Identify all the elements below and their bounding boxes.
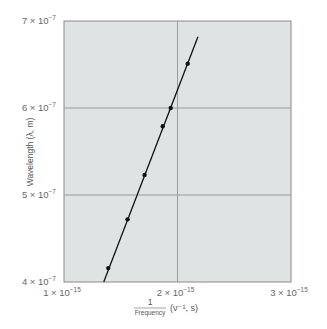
data-point bbox=[125, 217, 129, 221]
y-tick-label: 7 × 10−7 bbox=[22, 14, 56, 26]
x-axis-label: 1 Frequency (ν⁻¹, s) bbox=[134, 297, 198, 317]
data-point bbox=[186, 61, 190, 65]
chart: 4 × 10−75 × 10−76 × 10−77 × 10−7 1 × 10−… bbox=[0, 0, 327, 329]
y-tick-label: 5 × 10−7 bbox=[22, 188, 56, 200]
y-tick-label: 6 × 10−7 bbox=[22, 101, 56, 113]
data-point bbox=[168, 106, 172, 110]
svg-text:(ν⁻¹, s): (ν⁻¹, s) bbox=[170, 303, 198, 313]
data-point bbox=[106, 266, 110, 270]
y-axis-label: Wavelength (λ, m) bbox=[25, 118, 35, 187]
y-tick-label: 4 × 10−7 bbox=[22, 275, 56, 287]
data-point bbox=[142, 173, 146, 177]
svg-text:1: 1 bbox=[148, 297, 153, 307]
x-tick-label: 3 × 10−15 bbox=[270, 286, 308, 298]
x-tick-label: 2 × 10−15 bbox=[157, 286, 195, 298]
x-tick-label: 1 × 10−15 bbox=[43, 286, 81, 298]
x-axis-ticks: 1 × 10−152 × 10−153 × 10−15 bbox=[43, 286, 308, 298]
svg-text:Frequency: Frequency bbox=[135, 309, 166, 317]
data-point bbox=[161, 124, 165, 128]
